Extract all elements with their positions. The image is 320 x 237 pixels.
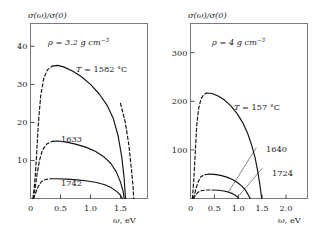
y-tick-label: 200 (172, 96, 188, 106)
x-tick-label: 1.0 (84, 203, 97, 213)
y-axis-title-right: σ(ω)/σ(0) (188, 10, 227, 20)
x-axis-title-right: ω, eV (278, 215, 302, 225)
y-ticks-left: 10203040 (17, 41, 34, 165)
curve-label-157: T = 157 °C (234, 102, 280, 112)
x-tick-label: 0 (28, 203, 33, 213)
x-tick-label: 0 (188, 203, 193, 213)
x-tick-label: 0.5 (208, 203, 221, 213)
x-tick-label: 1.5 (256, 203, 269, 213)
y-tick-label: 10 (17, 155, 27, 165)
curve-falling-dashed (121, 103, 134, 198)
leaders-right (229, 147, 262, 196)
x-ticks-left: 00.51.01.5 (28, 195, 127, 213)
curve-rising-dashed (193, 174, 208, 198)
curve-label-1742: 1742 (61, 178, 82, 188)
curve-rising-dashed (33, 66, 52, 198)
y-axis-title-left: σ(ω)/σ(0) (28, 10, 67, 20)
figure-container: σ(ω)/σ(0) 10203040 00.51.01.5 ρ = 3.2 g … (0, 0, 320, 237)
density-annotation-left: ρ = 3.2 g cm−3 (47, 37, 109, 47)
chart-panel-left: σ(ω)/σ(0) 10203040 00.51.01.5 ρ = 3.2 g … (0, 0, 160, 237)
curve-rising-dashed (192, 93, 206, 198)
chart-svg-right: σ(ω)/σ(0) 100200300 00.51.01.52.0 ρ = 4 … (160, 0, 320, 237)
chart-svg-left: σ(ω)/σ(0) 10203040 00.51.01.5 ρ = 3.2 g … (0, 0, 160, 237)
leader-1724 (238, 168, 262, 196)
x-tick-label: 1.5 (114, 203, 127, 213)
x-tick-label: 0.5 (54, 203, 67, 213)
chart-panel-right: σ(ω)/σ(0) 100200300 00.51.01.52.0 ρ = 4 … (160, 0, 320, 237)
x-tick-label: 2.0 (279, 203, 292, 213)
y-tick-label: 20 (17, 117, 27, 127)
curves-left (33, 65, 134, 198)
curve-rising-dashed (34, 141, 53, 198)
curve-main-solid (52, 141, 124, 198)
curve-main-solid (209, 174, 251, 198)
curve-main-solid (212, 190, 238, 199)
x-tick-label: 1.0 (232, 203, 245, 213)
curve-label-1633: 1633 (61, 134, 82, 144)
y-tick-label: 300 (172, 48, 188, 58)
y-ticks-right: 100200300 (172, 48, 195, 155)
curve-label-1724: 1724 (272, 168, 293, 178)
curve-rising-dashed (193, 190, 212, 199)
y-tick-label: 40 (17, 41, 27, 51)
leader-1640 (229, 147, 257, 191)
plot-frame-left (31, 24, 148, 199)
y-tick-label: 100 (172, 145, 188, 155)
density-annotation-right: ρ = 4 g cm−3 (211, 37, 266, 47)
x-axis-title-left: ω, eV (113, 215, 137, 225)
curve-label-1640: 1640 (266, 144, 287, 154)
x-ticks-right: 00.51.01.52.0 (188, 195, 293, 213)
curve-label-1582: T = 1582 °C (76, 64, 127, 74)
y-tick-label: 30 (17, 79, 27, 89)
